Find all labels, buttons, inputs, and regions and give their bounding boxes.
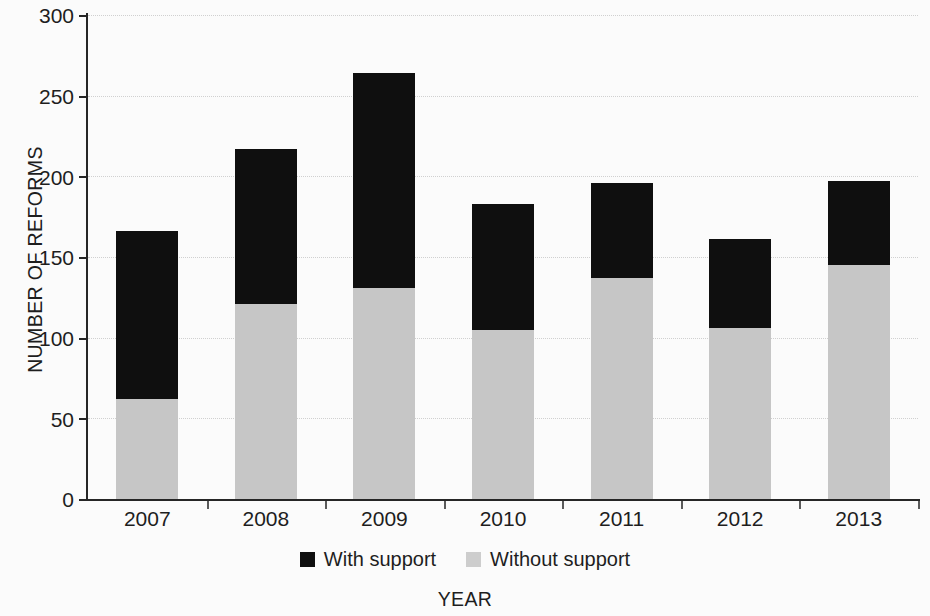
chart-legend: With support Without support [0, 549, 930, 569]
y-tick-mark-200 [79, 176, 87, 178]
y-tick-label-250: 250 [18, 86, 74, 107]
bar-group-2007 [116, 15, 178, 499]
bar-group-2012 [709, 15, 771, 499]
x-tick-label-2012: 2012 [690, 507, 790, 531]
bar-segment-with-support-2008 [235, 149, 297, 304]
legend-item-without-support: Without support [466, 549, 630, 569]
y-tick-mark-150 [79, 257, 87, 259]
bar-stack-2009 [353, 73, 415, 499]
x-tick-label-2010: 2010 [453, 507, 553, 531]
y-tick-label-0: 0 [18, 489, 74, 510]
bar-stack-2013 [828, 181, 890, 499]
legend-swatch-gray-icon [466, 552, 481, 567]
bar-stack-2008 [235, 149, 297, 499]
x-tick-mark-end [918, 501, 920, 509]
y-tick-label-200: 200 [18, 167, 74, 188]
bar-stack-2012 [709, 239, 771, 499]
bar-segment-with-support-2007 [116, 231, 178, 399]
plot-area [88, 15, 918, 499]
y-tick-label-300: 300 [18, 5, 74, 26]
legend-label-with-support: With support [324, 549, 436, 569]
bar-group-2013 [828, 15, 890, 499]
x-tick-label-2013: 2013 [809, 507, 909, 531]
y-axis-tick-labels: 300 250 200 150 100 50 0 [18, 0, 74, 616]
bar-segment-with-support-2012 [709, 239, 771, 328]
x-tick-mark-6 [799, 501, 801, 509]
bar-group-2011 [591, 15, 653, 499]
legend-item-with-support: With support [300, 549, 436, 569]
bar-segment-without-support-2013 [828, 265, 890, 499]
y-tick-label-50: 50 [18, 409, 74, 430]
bar-stack-2011 [591, 183, 653, 499]
y-tick-mark-250 [79, 96, 87, 98]
legend-swatch-black-icon [300, 552, 315, 567]
bar-segment-with-support-2011 [591, 183, 653, 278]
bar-segment-without-support-2012 [709, 328, 771, 499]
bar-segment-without-support-2011 [591, 278, 653, 499]
x-tick-mark-2 [325, 501, 327, 509]
x-tick-label-2007: 2007 [97, 507, 197, 531]
x-tick-mark-5 [681, 501, 683, 509]
bar-stack-2010 [472, 204, 534, 499]
legend-label-without-support: Without support [490, 549, 630, 569]
x-tick-mark-1 [207, 501, 209, 509]
y-tick-mark-300 [79, 15, 87, 17]
y-tick-label-150: 150 [18, 247, 74, 268]
bar-segment-with-support-2013 [828, 181, 890, 265]
x-axis-title: YEAR [0, 588, 930, 611]
x-tick-label-2009: 2009 [334, 507, 434, 531]
bar-group-2008 [235, 15, 297, 499]
x-tick-mark-4 [562, 501, 564, 509]
x-tick-mark-3 [444, 501, 446, 509]
x-axis-line [86, 499, 920, 501]
y-tick-label-100: 100 [18, 328, 74, 349]
bar-segment-with-support-2009 [353, 73, 415, 288]
bar-segment-without-support-2008 [235, 304, 297, 499]
bar-segment-without-support-2007 [116, 399, 178, 499]
stacked-bar-chart: NUMBER OF REFORMS 300 250 200 150 100 50… [0, 0, 930, 616]
bar-stack-2007 [116, 231, 178, 499]
y-tick-mark-50 [79, 418, 87, 420]
bar-group-2010 [472, 15, 534, 499]
bar-segment-without-support-2009 [353, 288, 415, 499]
bar-segment-with-support-2010 [472, 204, 534, 330]
y-tick-mark-100 [79, 338, 87, 340]
x-tick-label-2011: 2011 [572, 507, 672, 531]
bar-segment-without-support-2010 [472, 330, 534, 499]
x-tick-label-2008: 2008 [216, 507, 316, 531]
bar-group-2009 [353, 15, 415, 499]
